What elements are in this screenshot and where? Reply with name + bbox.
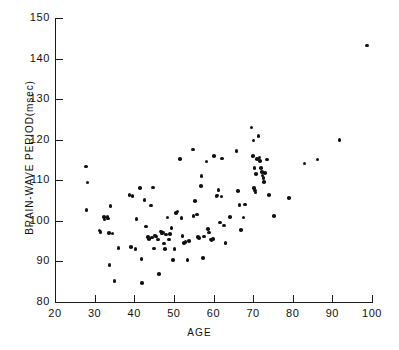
x-tick-label: 70 bbox=[233, 308, 273, 319]
y-tick bbox=[56, 140, 63, 141]
data-point bbox=[174, 211, 178, 215]
data-point bbox=[250, 126, 254, 130]
data-point bbox=[99, 230, 103, 234]
data-point bbox=[209, 238, 213, 242]
data-point bbox=[251, 154, 255, 158]
y-tick-label: 150 bbox=[10, 12, 50, 23]
data-point bbox=[182, 241, 186, 245]
data-point bbox=[207, 231, 211, 235]
data-point bbox=[149, 204, 153, 208]
data-point bbox=[205, 160, 209, 164]
x-tick-label: 50 bbox=[154, 308, 194, 319]
data-point bbox=[86, 181, 90, 185]
data-point bbox=[140, 257, 144, 261]
data-point bbox=[146, 235, 150, 239]
data-point bbox=[212, 154, 216, 158]
data-point bbox=[210, 238, 214, 242]
data-point bbox=[253, 189, 257, 193]
data-point bbox=[131, 194, 135, 198]
data-point bbox=[287, 196, 291, 200]
data-point bbox=[263, 171, 267, 175]
data-point bbox=[243, 203, 247, 207]
data-point bbox=[218, 221, 222, 225]
data-point bbox=[98, 229, 102, 233]
data-point bbox=[261, 174, 265, 178]
data-point bbox=[171, 258, 175, 262]
data-point bbox=[157, 272, 161, 276]
data-point bbox=[253, 166, 257, 170]
data-point bbox=[216, 194, 220, 198]
y-axis-line bbox=[55, 18, 56, 303]
data-point bbox=[192, 214, 196, 218]
data-point bbox=[272, 214, 276, 218]
y-tick bbox=[56, 261, 63, 262]
data-point bbox=[108, 263, 112, 267]
data-point bbox=[176, 210, 180, 214]
x-tick bbox=[95, 295, 96, 302]
data-point bbox=[85, 208, 89, 212]
data-point bbox=[151, 186, 155, 190]
data-point bbox=[303, 162, 307, 166]
data-point bbox=[184, 240, 188, 244]
x-axis-line bbox=[55, 302, 373, 303]
data-point bbox=[181, 234, 185, 238]
data-point bbox=[262, 180, 266, 184]
data-point bbox=[201, 256, 205, 260]
data-point bbox=[255, 157, 259, 161]
data-point bbox=[199, 184, 203, 188]
data-point bbox=[220, 157, 224, 161]
data-point bbox=[128, 193, 132, 197]
data-point bbox=[178, 157, 182, 161]
data-point bbox=[162, 242, 166, 246]
data-point bbox=[106, 217, 110, 221]
data-point bbox=[196, 235, 200, 239]
data-point bbox=[224, 241, 228, 245]
data-point bbox=[152, 247, 156, 251]
data-point bbox=[193, 199, 197, 203]
y-tick bbox=[56, 302, 63, 303]
data-point bbox=[191, 148, 195, 152]
data-point bbox=[150, 236, 154, 240]
x-tick bbox=[332, 295, 333, 302]
data-point bbox=[242, 216, 246, 220]
y-axis-title: BRAIN-WAVE PERIOD(msec) bbox=[24, 33, 35, 283]
data-point bbox=[159, 230, 163, 234]
scatter-plot-figure: 8090100110120130140150 20304050607080901… bbox=[0, 0, 399, 350]
data-point bbox=[161, 231, 165, 235]
y-tick bbox=[56, 18, 63, 19]
data-point bbox=[117, 246, 121, 250]
data-point bbox=[259, 166, 263, 170]
x-tick bbox=[253, 295, 254, 302]
x-tick bbox=[55, 295, 56, 302]
data-point bbox=[258, 159, 262, 163]
data-point bbox=[222, 224, 226, 228]
x-tick bbox=[174, 295, 175, 302]
y-tick bbox=[56, 221, 63, 222]
data-point bbox=[254, 172, 258, 176]
data-point bbox=[173, 247, 177, 251]
data-point bbox=[252, 186, 256, 190]
data-point bbox=[211, 237, 215, 241]
data-point bbox=[167, 238, 171, 242]
data-point bbox=[235, 149, 239, 153]
x-axis-title: AGE bbox=[0, 327, 399, 338]
data-point bbox=[154, 235, 158, 239]
data-point bbox=[217, 188, 221, 192]
data-point bbox=[215, 194, 219, 198]
data-point bbox=[106, 215, 110, 219]
y-tick-label: 80 bbox=[10, 296, 50, 307]
data-point bbox=[166, 216, 170, 220]
data-point bbox=[195, 213, 199, 217]
data-point bbox=[365, 44, 369, 48]
data-point bbox=[103, 218, 107, 222]
data-point bbox=[153, 234, 157, 238]
data-point bbox=[254, 191, 258, 195]
data-point bbox=[252, 139, 256, 143]
data-point bbox=[262, 176, 266, 180]
y-tick bbox=[56, 59, 63, 60]
data-point bbox=[111, 232, 115, 236]
x-tick bbox=[293, 295, 294, 302]
x-tick-label: 40 bbox=[114, 308, 154, 319]
data-point bbox=[257, 134, 261, 138]
data-point bbox=[202, 235, 206, 239]
